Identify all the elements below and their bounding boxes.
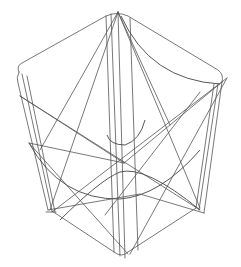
- wireframe-drawing: [0, 0, 241, 267]
- cross-diagonals: [20, 78, 227, 254]
- top-outline: [18, 14, 223, 83]
- left-side-edges: [17, 72, 55, 212]
- apex-diagonals: [40, 12, 200, 210]
- wireframe-figure: [0, 0, 241, 267]
- right-side-edges: [196, 82, 222, 213]
